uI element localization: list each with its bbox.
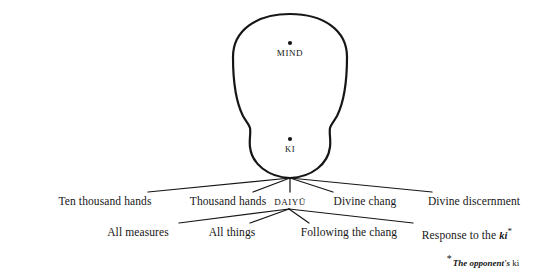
branch-all-measures: All measures <box>107 226 169 238</box>
ki-label: KI <box>285 144 295 154</box>
footnote-ki-text: ki <box>512 258 519 268</box>
footnote-italic-text: The opponent's <box>453 258 510 268</box>
ki-dot <box>288 137 292 141</box>
mind-label: MIND <box>277 48 303 58</box>
branch-response-to-the-ki: Response to the ki* <box>422 226 512 241</box>
connector-row2-0 <box>179 209 289 223</box>
branch-response-ki-italic: ki <box>499 230 507 241</box>
connector-fan-row-two <box>179 209 413 223</box>
mind-dot <box>288 41 292 45</box>
connector-row1-0 <box>148 178 290 192</box>
branch-divine-chang: Divine chang <box>334 195 397 207</box>
branch-daiyu: DAIYŪ <box>274 197 306 207</box>
branch-divine-discernment: Divine discernment <box>428 195 520 207</box>
footnote-asterisk: * <box>447 253 452 264</box>
connector-row2-3 <box>289 209 413 223</box>
footnote: *The opponent's ki <box>447 253 520 268</box>
branch-response-prefix: Response to the <box>422 229 499 241</box>
branch-all-things: All things <box>209 226 256 238</box>
branch-following-the-chang: Following the chang <box>301 226 397 238</box>
branch-response-asterisk: * <box>508 226 513 236</box>
diagram-canvas: MIND KI Ten thousand hands Thousand hand… <box>0 0 553 274</box>
connector-fan-row-one <box>148 178 432 192</box>
branch-thousand-hands: Thousand hands <box>190 195 266 207</box>
branch-ten-thousand-hands: Ten thousand hands <box>59 195 152 207</box>
